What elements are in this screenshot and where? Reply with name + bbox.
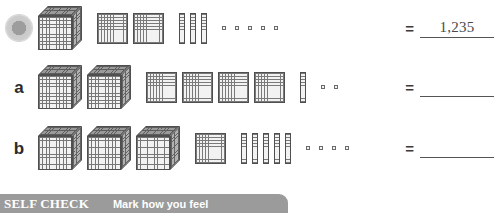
hundred-flat — [97, 13, 128, 44]
one-unit — [235, 26, 239, 30]
answer-value: 1,235 — [439, 19, 474, 36]
bullet-dot-icon — [6, 15, 32, 41]
thousand-cube — [136, 126, 180, 170]
block-group-b — [38, 122, 405, 174]
self-check-subtitle: Mark how you feel — [113, 198, 208, 210]
answer-blank-b[interactable] — [420, 138, 494, 158]
row-label-b: b — [14, 140, 24, 157]
worksheet-row-example: = 1,235 — [0, 4, 500, 52]
one-unit — [319, 146, 323, 150]
thousand-cube — [38, 65, 82, 109]
ten-rod — [241, 133, 247, 164]
ten-rod — [274, 133, 280, 164]
equals-sign: = — [405, 80, 414, 95]
self-check-title: SELF CHECK — [4, 196, 89, 212]
row-label-a: a — [14, 79, 23, 96]
ten-rod — [179, 13, 185, 44]
base-ten-blocks-worksheet: = 1,235 a — [0, 0, 500, 213]
hundred-flat — [182, 72, 213, 103]
ten-rod — [285, 133, 291, 164]
ten-rod — [201, 13, 207, 44]
ones-units-a — [321, 62, 347, 112]
answer-area-example: = 1,235 — [405, 4, 500, 52]
one-unit — [306, 146, 310, 150]
one-unit — [274, 26, 278, 30]
thousands-cubes-example — [38, 4, 87, 52]
block-group-example — [38, 4, 405, 52]
hundreds-flats-example — [97, 4, 169, 52]
hundreds-flats-a — [146, 62, 290, 112]
thousand-cube — [38, 126, 82, 170]
ones-units-example — [222, 4, 287, 52]
hundred-flat — [195, 133, 226, 164]
answer-blank-a[interactable] — [420, 77, 494, 97]
thousand-cube — [38, 6, 82, 50]
thousand-cube — [87, 126, 131, 170]
hundred-flat — [133, 13, 164, 44]
ten-rod — [190, 13, 196, 44]
ones-units-b — [306, 122, 358, 174]
ten-rod — [263, 133, 269, 164]
one-unit — [261, 26, 265, 30]
hundred-flat — [254, 72, 285, 103]
tens-rods-example — [179, 4, 212, 52]
row-marker-example — [0, 4, 38, 52]
one-unit — [332, 146, 336, 150]
one-unit — [222, 26, 226, 30]
self-check-bar: SELF CHECK Mark how you feel — [0, 194, 288, 213]
hundreds-flats-b — [195, 122, 231, 174]
ten-rod — [252, 133, 258, 164]
hundred-flat — [146, 72, 177, 103]
answer-blank-example[interactable]: 1,235 — [420, 18, 494, 38]
block-group-a — [38, 62, 405, 112]
one-unit — [334, 85, 338, 89]
tens-rods-a — [300, 62, 311, 112]
row-marker-b: b — [0, 122, 38, 174]
thousands-cubes-a — [38, 62, 136, 112]
worksheet-row-a: a = — [0, 62, 500, 112]
hundred-flat — [218, 72, 249, 103]
equals-sign: = — [405, 21, 414, 36]
equals-sign: = — [405, 141, 414, 156]
tens-rods-b — [241, 122, 296, 174]
one-unit — [248, 26, 252, 30]
row-marker-a: a — [0, 62, 38, 112]
one-unit — [321, 85, 325, 89]
thousands-cubes-b — [38, 122, 185, 174]
worksheet-row-b: b — [0, 122, 500, 174]
one-unit — [345, 146, 349, 150]
answer-area-a: = — [405, 62, 500, 112]
ten-rod — [300, 72, 306, 103]
thousand-cube — [87, 65, 131, 109]
answer-area-b: = — [405, 122, 500, 174]
